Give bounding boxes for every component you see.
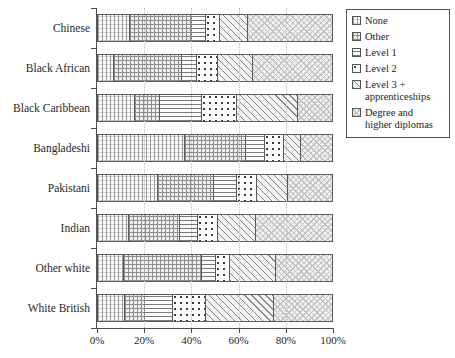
bar-segment (114, 55, 183, 81)
y-axis-tick (91, 128, 96, 129)
bar-segment (248, 15, 332, 41)
gridline (239, 8, 241, 328)
y-axis-tick (91, 328, 96, 329)
bar-segment (256, 215, 332, 241)
bar-segment (129, 215, 180, 241)
chart-legend: NoneOtherLevel 1Level 2Level 3 + apprent… (346, 9, 450, 138)
category-label: Other white (35, 262, 90, 274)
stacked-bar-chart: ChineseBlack AfricanBlack CaribbeanBangl… (0, 0, 455, 358)
legend-item[interactable]: Degree and higher diplomas (352, 107, 445, 131)
legend-item[interactable]: Other (352, 31, 445, 43)
bar-segment (180, 215, 198, 241)
x-axis-tick-label: 40% (169, 334, 213, 347)
bar-segment (98, 55, 114, 81)
bar-segment (253, 55, 332, 81)
bar-segment (98, 215, 129, 241)
bar-segment (197, 55, 218, 81)
bar-segment (214, 175, 236, 201)
category-label: Black African (26, 62, 90, 74)
legend-label: None (365, 15, 388, 27)
bar-segment (202, 95, 238, 121)
bar-segment (145, 295, 173, 321)
legend-item[interactable]: Level 3 + apprenticeships (352, 79, 445, 103)
x-axis-tick (191, 328, 192, 333)
bar-segment (158, 175, 214, 201)
bar-row (97, 174, 333, 202)
bar-segment (98, 95, 135, 121)
legend-label: Level 1 (365, 47, 397, 59)
legend-item[interactable]: Level 2 (352, 63, 445, 75)
bar-segment (298, 95, 332, 121)
x-axis-tick (239, 328, 240, 333)
bar-segment (98, 295, 125, 321)
legend-label: Level 2 (365, 63, 397, 75)
y-axis-tick (91, 248, 96, 249)
x-axis-tick (286, 328, 287, 333)
legend-label: Level 3 + apprenticeships (365, 79, 430, 103)
bar-segment (125, 295, 145, 321)
bar-segment (257, 175, 288, 201)
bar-segment (98, 135, 185, 161)
legend-item[interactable]: Level 1 (352, 47, 445, 59)
x-axis-tick-label: 60% (217, 334, 261, 347)
x-axis-tick-label: 100% (311, 334, 355, 347)
gridline (286, 8, 288, 328)
bar-segment (135, 95, 161, 121)
gridline (191, 8, 193, 328)
y-axis-tick (91, 208, 96, 209)
bar-segment (160, 95, 201, 121)
bar-segment (220, 15, 248, 41)
bar-row (97, 14, 333, 42)
legend-swatch-icon (352, 16, 361, 25)
bar-segment (124, 255, 202, 281)
bar-segment (206, 15, 220, 41)
bar-segment (301, 135, 332, 161)
bar-segment (218, 55, 253, 81)
legend-swatch-icon (352, 80, 361, 89)
bar-segment (218, 215, 257, 241)
y-axis-tick (91, 88, 96, 89)
y-axis-tick (91, 168, 96, 169)
bar-row (97, 254, 333, 282)
bar-segment (192, 15, 206, 41)
bar-segment (246, 135, 265, 161)
bar-row (97, 94, 333, 122)
x-axis-tick-label: 20% (122, 334, 166, 347)
bar-row (97, 214, 333, 242)
bar-segment (202, 255, 216, 281)
category-label: White British (28, 302, 90, 314)
bar-segment (288, 175, 332, 201)
legend-swatch-icon (352, 48, 361, 57)
bar-segment (230, 255, 276, 281)
legend-label: Degree and higher diplomas (365, 107, 433, 131)
bar-segment (98, 255, 124, 281)
x-axis-tick-label: 0% (75, 334, 119, 347)
bar-segment (98, 175, 158, 201)
x-axis-tick (144, 328, 145, 333)
bar-segment (276, 255, 332, 281)
bar-row (97, 134, 333, 162)
bar-segment (185, 135, 245, 161)
y-axis-tick (91, 8, 96, 9)
bar-segment (182, 55, 197, 81)
bar-segment (265, 135, 285, 161)
category-label: Pakistani (48, 182, 90, 194)
bar-segment (130, 15, 193, 41)
category-axis-labels: ChineseBlack AfricanBlack CaribbeanBangl… (0, 8, 90, 328)
bar-segment (198, 215, 217, 241)
category-label: Bangladeshi (33, 142, 90, 154)
category-label: Indian (61, 222, 90, 234)
bar-segment (274, 295, 332, 321)
x-axis-tick (333, 328, 334, 333)
category-label: Black Caribbean (13, 102, 90, 114)
bar-segment (98, 15, 130, 41)
bar-segment (237, 95, 298, 121)
legend-item[interactable]: None (352, 15, 445, 27)
legend-swatch-icon (352, 108, 361, 117)
bar-segment (173, 295, 206, 321)
category-label: Chinese (53, 22, 90, 34)
bar-row (97, 294, 333, 322)
y-axis-tick (91, 288, 96, 289)
legend-swatch-icon (352, 32, 361, 41)
plot-area (97, 8, 333, 328)
